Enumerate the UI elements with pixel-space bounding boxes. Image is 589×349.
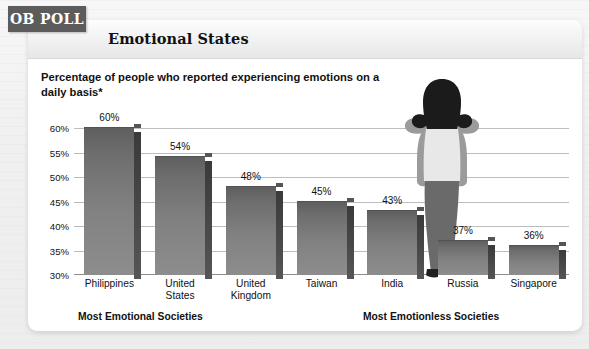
bar-side-face (205, 161, 212, 279)
bar-value-label: 48% (241, 171, 261, 182)
bar-top-face (417, 207, 424, 211)
bar-united-kingdom[interactable]: 48% (226, 187, 276, 275)
bar-side-face (134, 132, 141, 279)
bar-singapore[interactable]: 36% (509, 246, 559, 275)
y-axis-tick: 50% (50, 172, 69, 183)
page-title: Emotional States (108, 30, 249, 47)
bar-top-face (488, 237, 495, 241)
bar-united-states[interactable]: 54% (155, 157, 205, 275)
y-axis-tick: 60% (50, 123, 69, 134)
bar-face (438, 240, 488, 275)
bar-philippines[interactable]: 60% (84, 128, 134, 275)
bar-top-face (205, 153, 212, 157)
poll-badge: OB POLL (8, 6, 86, 32)
group-label-most-emotionless: Most Emotionless Societies (363, 311, 499, 322)
group-label-most-emotional: Most Emotional Societies (78, 311, 203, 322)
bar-face (226, 186, 276, 275)
x-axis-label-united-kingdom: UnitedKingdom (215, 278, 286, 303)
bar-side-face (559, 250, 566, 279)
bar-value-label: 60% (99, 112, 119, 123)
bar-side-face (276, 191, 283, 279)
bar-top-face (134, 124, 141, 128)
bar-value-label: 54% (170, 141, 190, 152)
bar-side-face (347, 206, 354, 280)
y-axis-tick: 55% (50, 147, 69, 158)
poll-badge-label: OB POLL (10, 11, 84, 27)
x-axis-label-russia: Russia (428, 278, 499, 290)
bar-value-label: 36% (524, 230, 544, 241)
x-axis-label-singapore: Singapore (498, 278, 569, 290)
chart-plot-area: 60%55%50%45%40%35%30% 60%54%48%45%43%37%… (41, 128, 569, 275)
bar-side-face (488, 245, 495, 279)
bar-top-face (276, 183, 283, 187)
bar-face (509, 245, 559, 275)
bar-face (367, 210, 417, 275)
bar-value-label: 43% (382, 195, 402, 206)
x-axis-label-united-states: UnitedStates (145, 278, 216, 303)
bar-series: 60%54%48%45%43%37%36% (74, 128, 569, 275)
y-axis-tick: 35% (50, 245, 69, 256)
chart-subtitle: Percentage of people who reported experi… (41, 70, 381, 100)
bar-taiwan[interactable]: 45% (297, 202, 347, 276)
bar-value-label: 37% (453, 225, 473, 236)
bar-side-face (417, 215, 424, 279)
bar-india[interactable]: 43% (367, 211, 417, 275)
x-axis-label-philippines: Philippines (74, 278, 145, 290)
infographic-card: Emotional States Percentage of people wh… (28, 20, 582, 331)
bar-value-label: 45% (311, 186, 331, 197)
x-axis-label-india: India (357, 278, 428, 290)
y-axis-tick: 30% (50, 270, 69, 281)
bar-face (84, 127, 134, 275)
bar-russia[interactable]: 37% (438, 241, 488, 275)
y-axis: 60%55%50%45%40%35%30% (41, 128, 71, 275)
x-axis-labels: PhilippinesUnitedStatesUnitedKingdomTaiw… (74, 278, 582, 312)
bar-top-face (347, 198, 354, 202)
y-axis-tick: 40% (50, 221, 69, 232)
bar-face (155, 156, 205, 275)
bar-face (297, 201, 347, 276)
x-axis-label-taiwan: Taiwan (286, 278, 357, 290)
bar-top-face (559, 242, 566, 246)
y-axis-tick: 45% (50, 196, 69, 207)
